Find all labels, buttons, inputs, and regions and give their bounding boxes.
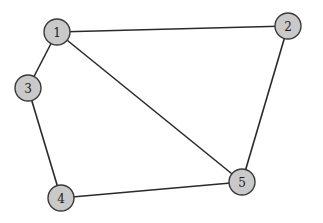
nodes-layer: 12345 <box>15 13 301 211</box>
node-label: 5 <box>238 176 246 190</box>
edge-4-5 <box>61 182 242 198</box>
node-label: 3 <box>24 82 32 96</box>
graph-diagram: 12345 <box>0 0 323 223</box>
edge-2-5 <box>242 26 288 182</box>
edge-3-4 <box>28 88 61 198</box>
node-label: 1 <box>53 26 61 40</box>
edge-1-2 <box>57 26 288 32</box>
node-1: 1 <box>44 19 70 45</box>
edge-1-5 <box>57 32 242 182</box>
node-label: 4 <box>57 192 65 206</box>
node-3: 3 <box>15 75 41 101</box>
node-2: 2 <box>275 13 301 39</box>
node-5: 5 <box>229 169 255 195</box>
node-label: 2 <box>284 20 292 34</box>
node-4: 4 <box>48 185 74 211</box>
